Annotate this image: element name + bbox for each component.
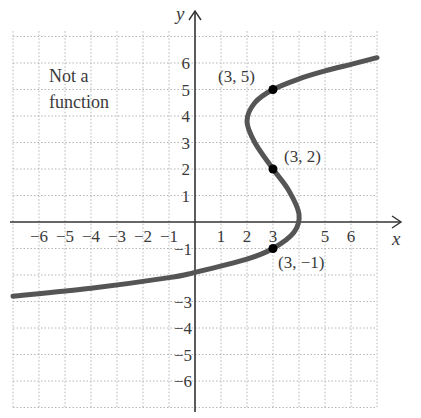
x-tick-label: 2 [243, 227, 252, 246]
x-tick-label: 1 [217, 227, 226, 246]
x-tick-label: 6 [347, 227, 356, 246]
y-axis-label: y [174, 3, 185, 24]
point-label-3-neg1: (3, −1) [278, 253, 324, 272]
point-marker [269, 165, 278, 174]
x-tick-label: −5 [56, 227, 74, 246]
x-tick-label: −3 [108, 227, 126, 246]
x-tick-label: −6 [30, 227, 48, 246]
x-tick-label: −4 [82, 227, 101, 246]
x-tick-label: 5 [321, 227, 330, 246]
y-tick-label: 1 [182, 187, 191, 206]
point-label-3-2: (3, 2) [284, 147, 321, 166]
y-tick-label: −3 [174, 293, 192, 312]
y-tick-label: −6 [174, 372, 192, 391]
x-tick-label: −2 [134, 227, 152, 246]
y-tick-label: −1 [174, 240, 192, 259]
y-tick-label: 6 [182, 54, 191, 73]
y-tick-label: 5 [182, 81, 191, 100]
chart: y x Not a function (3, 5) (3, 2) (3, −1)… [0, 0, 421, 418]
y-tick-label: −4 [174, 319, 193, 338]
y-tick-label: 3 [182, 134, 191, 153]
annotation-line-2: function [49, 92, 109, 112]
point-marker [269, 85, 278, 94]
point-label-3-5: (3, 5) [218, 67, 255, 86]
y-tick-label: −5 [174, 346, 192, 365]
x-axis-label: x [391, 228, 401, 249]
y-tick-label: 4 [182, 107, 191, 126]
y-tick-label: 2 [182, 160, 191, 179]
x-tick-labels: −6−5−4−3−2−112356 [30, 227, 355, 246]
x-tick-label: 3 [269, 227, 278, 246]
annotation-line-1: Not a [49, 66, 89, 86]
